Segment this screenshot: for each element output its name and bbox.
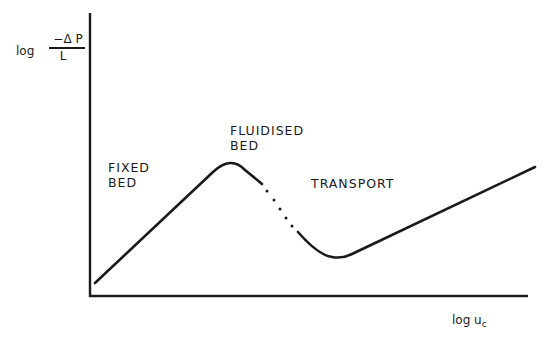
dot	[291, 225, 294, 228]
x-axis-label: log uc	[452, 313, 487, 329]
y-axis-label-numerator: −Δ P	[49, 32, 85, 46]
region-label-line: FIXED	[108, 160, 150, 175]
dot	[266, 190, 269, 193]
region-label-line: FLUIDISED	[230, 123, 304, 138]
region-label-line: TRANSPORT	[311, 176, 394, 191]
dot	[279, 208, 282, 211]
y-axis-label-fraction: −Δ P L	[49, 32, 85, 63]
curve-dotted-transition	[266, 190, 294, 228]
y-axis-label-log: log	[16, 44, 34, 58]
y-axis-label-denominator: L	[41, 50, 85, 63]
region-label-fixed-bed: FIXED BED	[108, 160, 150, 190]
x-axis-label-text: log u	[452, 313, 482, 327]
dot	[273, 199, 276, 202]
fraction-bar	[49, 47, 85, 49]
dot	[285, 217, 288, 220]
region-label-fluidised-bed: FLUIDISED BED	[230, 123, 304, 153]
x-axis-label-subscript: c	[482, 319, 487, 329]
region-label-transport: TRANSPORT	[311, 176, 394, 191]
region-label-line: BED	[108, 175, 150, 190]
region-label-line: BED	[230, 138, 304, 153]
